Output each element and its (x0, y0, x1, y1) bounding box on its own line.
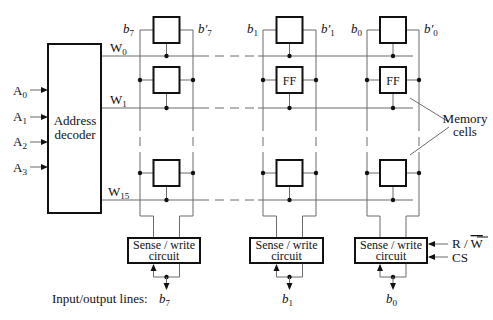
io-line-b1-label: b1 (282, 291, 293, 308)
flip-flop-label: FF (283, 74, 297, 88)
junction-dot (191, 78, 195, 82)
junction-dot (391, 106, 395, 110)
sense-write-label-line2: circuit (271, 249, 302, 263)
word-line-w1-label: W1 (110, 92, 127, 109)
address-input-a1-label: A1 (13, 109, 27, 126)
io-down-arrow-icon (390, 283, 396, 290)
junction-dot (287, 106, 291, 110)
bit-line-b1-prime-label: b′1 (321, 21, 335, 38)
io-down-arrow-icon (287, 283, 293, 290)
io-line-b7-label: b7 (159, 291, 171, 308)
memory-cell (154, 67, 180, 93)
address-input-a0-label: A0 (13, 83, 27, 100)
address-input-arrow-icon (41, 139, 48, 145)
junction-dot (164, 198, 168, 202)
junction-dot (261, 78, 265, 82)
bit-line-b0-prime-label: b′0 (424, 21, 438, 38)
address-input-a3-label: A3 (13, 160, 27, 177)
junction-dot (261, 171, 265, 175)
junction-dot (138, 78, 142, 82)
junction-dot (287, 54, 291, 58)
memory-cells-label-line2: cells (453, 124, 477, 139)
junction-dot (365, 78, 369, 82)
sense-write-label-line2: circuit (149, 249, 180, 263)
memory-cell (277, 17, 303, 43)
word-line-w0-label: W0 (110, 40, 127, 57)
junction-dot (314, 78, 318, 82)
word-line-w15-label: W15 (108, 184, 130, 201)
memory-cell (154, 160, 180, 186)
address-input-arrow-icon (41, 87, 48, 93)
io-up-arrow-icon (151, 264, 157, 271)
memory-cell (277, 160, 303, 186)
io-down-arrow-icon (164, 283, 170, 290)
address-input-a2-label: A2 (13, 134, 27, 151)
junction-dot (417, 171, 421, 175)
address-decoder-label-line2: decoder (54, 127, 96, 142)
memory-cell (380, 160, 406, 186)
flip-flop-label: FF (386, 74, 400, 88)
io-line-b0-label: b0 (386, 291, 398, 308)
bit-line-b7-prime-label: b′7 (198, 21, 212, 38)
junction-dot (365, 171, 369, 175)
junction-dot (391, 198, 395, 202)
labels: Address decoder A0 A1 A2 A3 W0 W1 W15 b7… (13, 21, 488, 308)
junction-dot (417, 78, 421, 82)
bit-line-b7-label: b7 (123, 21, 135, 38)
read-write-label: R / W (452, 236, 484, 251)
bit-line-b0-label: b0 (351, 21, 363, 38)
address-decoder-label-line1: Address (54, 113, 97, 128)
address-input-arrow-icon (41, 164, 48, 170)
junction-dot (287, 198, 291, 202)
address-input-arrow-icon (41, 114, 48, 120)
chip-select-label: CS (452, 250, 468, 265)
chip-select-arrow-icon (428, 254, 435, 260)
junction-dot (164, 54, 168, 58)
io-lines-label: Input/output lines: (52, 291, 148, 306)
memory-cells-pointer (410, 127, 449, 155)
junction-dot (138, 171, 142, 175)
boxes: Sense / writecircuitFFSense / writecircu… (128, 17, 427, 263)
junction-dot (314, 171, 318, 175)
junction-dot (164, 106, 168, 110)
bit-line-b1-label: b1 (247, 21, 258, 38)
memory-organization-diagram: Sense / writecircuitFFSense / writecircu… (0, 0, 493, 320)
read-write-arrow-icon (428, 241, 435, 247)
io-up-arrow-icon (274, 264, 280, 271)
junction-dot (391, 54, 395, 58)
junction-dot (191, 171, 195, 175)
sense-write-label-line2: circuit (376, 249, 407, 263)
memory-cell (154, 17, 180, 43)
memory-cell (380, 17, 406, 43)
io-up-arrow-icon (377, 264, 383, 271)
